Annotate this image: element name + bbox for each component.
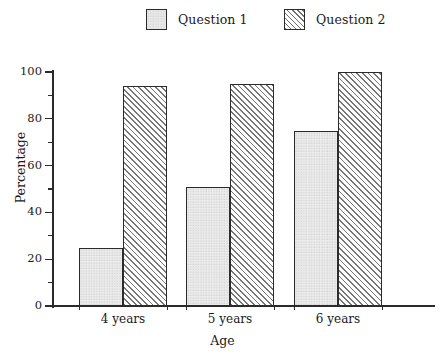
x-tick-4 (274, 305, 275, 310)
legend-swatch-question-2-icon (284, 9, 305, 30)
y-tick-label-20: 20 (12, 253, 42, 265)
y-tick-40 (45, 212, 53, 213)
legend-item-question-2: Question 2 (284, 9, 386, 30)
bar-question-2-6-years (338, 72, 382, 306)
y-minor-tick-70 (48, 142, 53, 143)
y-tick-label-100: 100 (12, 66, 42, 78)
bar-question-1-5-years (186, 187, 230, 306)
x-tick-label-4-years: 4 years (101, 312, 145, 326)
y-minor-tick-50 (48, 188, 53, 189)
x-tick-1 (79, 305, 80, 310)
x-tick-label-6-years: 6 years (316, 312, 360, 326)
y-axis-title: Percentage (13, 118, 28, 218)
x-tick-6 (382, 305, 383, 310)
legend-swatch-question-1-icon (146, 9, 167, 30)
chart-legend: Question 1 Question 2 (0, 9, 445, 33)
x-tick-2 (167, 305, 168, 310)
x-tick-5 (294, 305, 295, 310)
y-tick-20 (45, 259, 53, 260)
y-minor-tick-90 (48, 95, 53, 96)
bar-question-1-4-years (79, 248, 123, 307)
bar-question-1-6-years (294, 131, 338, 307)
bar-question-2-5-years (230, 84, 274, 306)
x-tick-label-5-years: 5 years (208, 312, 252, 326)
y-tick-100 (45, 71, 53, 72)
legend-label-question-2: Question 2 (316, 9, 386, 30)
legend-label-question-1: Question 1 (178, 9, 248, 30)
y-tick-label-0: 0 (12, 300, 42, 312)
x-axis-title: Age (0, 333, 445, 348)
y-tick-60 (45, 165, 53, 166)
bar-chart: Question 1 Question 2 0 20 40 60 80 100 … (0, 0, 445, 354)
y-tick-80 (45, 118, 53, 119)
y-tick-0 (45, 305, 53, 306)
y-minor-tick-10 (48, 282, 53, 283)
x-tick-3 (186, 305, 187, 310)
bar-question-2-4-years (123, 86, 167, 306)
y-minor-tick-30 (48, 235, 53, 236)
legend-item-question-1: Question 1 (146, 9, 248, 30)
